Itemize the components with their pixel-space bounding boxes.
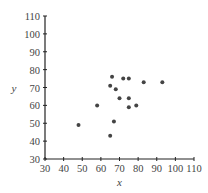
y-tick-label: 90 (30, 47, 41, 58)
data-point (127, 77, 131, 81)
y-tick-label: 70 (30, 83, 41, 94)
axes (45, 16, 194, 159)
x-tick-label: 110 (186, 163, 201, 174)
y-tick-label: 30 (30, 154, 41, 165)
x-tick-label: 50 (77, 163, 88, 174)
x-tick-label: 60 (96, 163, 107, 174)
data-point (95, 103, 99, 107)
x-tick-label: 40 (58, 163, 69, 174)
x-tick-label: 90 (152, 163, 163, 174)
data-point (77, 123, 81, 127)
x-axis-label: x (116, 176, 122, 188)
x-tick-label: 80 (133, 163, 144, 174)
data-point (127, 96, 131, 100)
data-point (142, 80, 146, 84)
data-point (121, 77, 125, 81)
y-tick-label: 110 (25, 11, 40, 22)
y-tick-label: 80 (30, 65, 41, 76)
x-tick-label: 70 (114, 163, 125, 174)
y-tick-label: 60 (30, 100, 41, 111)
data-point (108, 84, 112, 88)
data-points (77, 75, 165, 138)
y-axis-ticks: 30405060708090100110 (24, 11, 47, 165)
x-tick-label: 100 (168, 163, 184, 174)
x-tick-label: 30 (40, 163, 51, 174)
y-tick-label: 40 (30, 136, 41, 147)
data-point (110, 75, 114, 79)
scatter-chart: 30405060708090100110 3040506070809010011… (0, 0, 208, 193)
y-axis-label: y (11, 82, 17, 94)
data-point (118, 96, 122, 100)
data-point (160, 80, 164, 84)
data-point (112, 119, 116, 123)
data-point (134, 103, 138, 107)
data-point (114, 87, 118, 91)
data-point (108, 134, 112, 138)
y-tick-label: 100 (24, 29, 40, 40)
y-tick-label: 50 (30, 118, 41, 129)
data-point (127, 105, 131, 109)
